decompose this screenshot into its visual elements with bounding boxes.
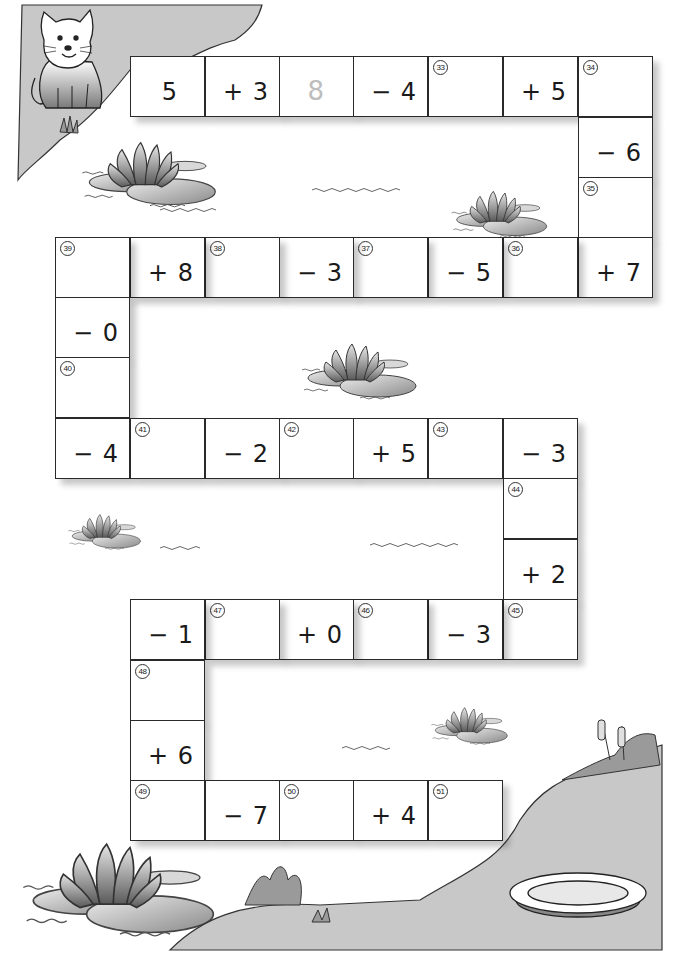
answer-box-36[interactable]: 36 [503,237,578,298]
start-value-cell: 5 [130,56,205,117]
step-number-badge: 50 [284,784,299,799]
step-number-badge: 34 [583,60,598,75]
operation-label: + 7 [596,259,642,287]
operation-label: − 2 [223,440,269,468]
step-number-badge: 38 [210,241,225,256]
operation-label: − 3 [521,440,567,468]
operation-cell: + 3 [205,56,280,117]
step-number-badge: 37 [358,241,373,256]
operation-cell: − 4 [55,418,130,479]
operation-label: + 5 [371,440,417,468]
answer-box-39[interactable]: 39 [55,237,130,298]
operation-cell: − 3 [503,418,578,479]
operation-label: − 4 [73,440,119,468]
number-path-board: 5+ 38− 433+ 534− 635+ 736− 537− 338+ 839… [0,0,677,954]
step-number-badge: 44 [508,482,523,497]
operation-label: + 4 [371,802,417,830]
value-label: 8 [307,76,325,106]
operation-cell: + 4 [353,780,428,841]
answer-box-33[interactable]: 33 [428,56,503,117]
step-number-badge: 45 [508,603,523,618]
operation-label: − 4 [371,78,417,106]
answer-box-42[interactable]: 42 [279,418,354,479]
step-number-badge: 41 [135,422,150,437]
answer-box-44[interactable]: 44 [503,478,578,539]
operation-label: + 0 [297,621,343,649]
operation-label: + 5 [521,78,567,106]
step-number-badge: 35 [583,181,598,196]
operation-cell: − 6 [578,117,653,178]
operation-cell: + 8 [130,237,205,298]
operation-cell: − 2 [205,418,280,479]
answer-box-37[interactable]: 37 [353,237,428,298]
operation-cell: + 0 [279,599,354,660]
answer-box-46[interactable]: 46 [353,599,428,660]
operation-cell: + 7 [578,237,653,298]
operation-label: − 5 [446,259,492,287]
answer-box-51[interactable]: 51 [428,780,503,841]
answer-box-49[interactable]: 49 [130,780,205,841]
operation-label: + 8 [148,259,194,287]
example-answer-cell: 8 [279,56,354,117]
operation-cell: + 5 [353,418,428,479]
step-number-badge: 33 [433,60,448,75]
operation-label: + 3 [223,78,269,106]
answer-box-45[interactable]: 45 [503,599,578,660]
operation-cell: + 2 [503,539,578,600]
operation-cell: + 6 [130,720,205,781]
operation-label: − 3 [297,259,343,287]
operation-label: − 6 [596,139,642,167]
operation-cell: − 5 [428,237,503,298]
step-number-badge: 36 [508,241,523,256]
operation-cell: − 3 [279,237,354,298]
step-number-badge: 39 [60,241,75,256]
operation-cell: + 5 [503,56,578,117]
value-label: 5 [162,78,178,106]
operation-cell: − 7 [205,780,280,841]
answer-box-38[interactable]: 38 [205,237,280,298]
answer-box-47[interactable]: 47 [205,599,280,660]
operation-cell: − 3 [428,599,503,660]
step-number-badge: 48 [135,664,150,679]
step-number-badge: 43 [433,422,448,437]
step-number-badge: 47 [210,603,225,618]
answer-box-34[interactable]: 34 [578,56,653,117]
answer-box-40[interactable]: 40 [55,357,130,418]
operation-label: − 0 [73,319,119,347]
step-number-badge: 51 [433,784,448,799]
answer-box-43[interactable]: 43 [428,418,503,479]
step-number-badge: 49 [135,784,150,799]
answer-box-48[interactable]: 48 [130,660,205,721]
operation-cell: − 0 [55,297,130,358]
operation-label: − 3 [446,621,492,649]
operation-cell: − 4 [353,56,428,117]
answer-box-35[interactable]: 35 [578,177,653,238]
step-number-badge: 40 [60,361,75,376]
answer-box-41[interactable]: 41 [130,418,205,479]
operation-label: − 7 [223,802,269,830]
step-number-badge: 42 [284,422,299,437]
answer-box-50[interactable]: 50 [279,780,354,841]
operation-label: + 6 [148,742,194,770]
step-number-badge: 46 [358,603,373,618]
operation-label: + 2 [521,561,567,589]
operation-label: − 1 [148,621,194,649]
operation-cell: − 1 [130,599,205,660]
